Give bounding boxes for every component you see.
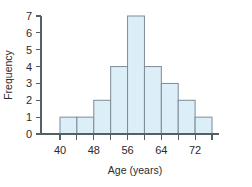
y-tick-label: 5 [26,44,32,56]
y-tick-label: 2 [26,94,32,106]
histogram-bar [94,100,111,134]
histogram-bar [195,117,212,134]
y-tick-label: 0 [26,128,32,140]
histogram-bar [60,117,77,134]
x-tick-label: 40 [54,144,66,156]
bars-group [60,16,212,134]
y-axis-title: Frequency [2,49,14,99]
y-axis-ticks: 01234567 [26,10,41,140]
histogram-bar [144,67,161,134]
histogram-bar [178,100,195,134]
y-tick-label: 6 [26,27,32,39]
chart-canvas: 01234567 4048566472 Age (years) Frequenc… [0,0,252,187]
x-tick-label: 56 [121,144,133,156]
x-tick-label: 72 [189,144,201,156]
x-axis-ticks: 4048566472 [54,134,212,156]
y-tick-label: 1 [26,111,32,123]
x-tick-label: 48 [88,144,100,156]
histogram-figure: 01234567 4048566472 Age (years) Frequenc… [0,0,252,187]
x-axis-title: Age (years) [108,164,162,176]
y-tick-label: 7 [26,10,32,22]
histogram-bar [77,117,94,134]
histogram-bar [128,16,145,134]
histogram-bar [111,67,128,134]
y-tick-label: 4 [26,61,32,73]
y-tick-label: 3 [26,77,32,89]
histogram-bar [161,83,178,134]
x-tick-label: 64 [155,144,167,156]
